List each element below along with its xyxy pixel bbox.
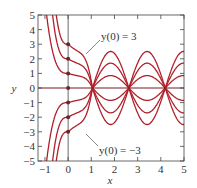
y-tick-label: 5 bbox=[30, 9, 36, 21]
y-tick-label: −2 bbox=[23, 111, 35, 123]
y-tick-label: −4 bbox=[23, 140, 35, 152]
x-tick-label: 4 bbox=[158, 163, 164, 175]
x-tick-label: 2 bbox=[112, 163, 118, 175]
x-tick-label: 0 bbox=[65, 163, 71, 175]
annotation-y0-neg3: y(0) = −3 bbox=[99, 144, 141, 157]
annotation-top: y(0) = 3 bbox=[86, 30, 137, 54]
x-axis-label: x bbox=[107, 174, 113, 186]
y-tick-label: −1 bbox=[23, 97, 35, 109]
y-tick-label: −5 bbox=[23, 155, 35, 167]
y-tick-label: 4 bbox=[30, 24, 36, 36]
y-tick-label: 1 bbox=[30, 67, 36, 79]
solution-curves-chart: −1012345−5−4−3−2−1012345 x y y(0) = 3 y(… bbox=[0, 0, 197, 188]
y-tick-label: 2 bbox=[30, 53, 36, 65]
x-tick-label: −1 bbox=[39, 163, 51, 175]
x-tick-label: 5 bbox=[181, 163, 187, 175]
y-tick-label: −3 bbox=[23, 126, 35, 138]
y-axis-label: y bbox=[11, 82, 17, 94]
y-tick-label: 0 bbox=[30, 82, 36, 94]
annotation-bottom: y(0) = −3 bbox=[86, 134, 141, 157]
y-tick-label: 3 bbox=[30, 38, 36, 50]
x-tick-label: 3 bbox=[135, 163, 141, 175]
x-tick-label: 1 bbox=[89, 163, 95, 175]
annotation-y0-3: y(0) = 3 bbox=[101, 30, 137, 43]
solution-curves bbox=[38, 0, 184, 188]
